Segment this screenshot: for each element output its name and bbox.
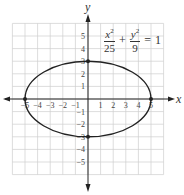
x-tick-label: −3 xyxy=(46,101,55,110)
y-tick-label: 5 xyxy=(81,32,85,41)
y-tick-label: −5 xyxy=(76,158,85,167)
x-tick-label: −4 xyxy=(33,101,42,110)
vertex-point xyxy=(149,97,153,101)
x-axis-left-arrow-icon xyxy=(3,97,10,102)
y-axis-up-arrow-icon xyxy=(86,14,91,22)
fraction-y: y2 9 xyxy=(130,28,140,54)
y-tick-label: −1 xyxy=(76,108,85,117)
x-axis-right-arrow-icon xyxy=(168,97,175,102)
equals-sign: = xyxy=(144,33,151,48)
y-tick-label: 1 xyxy=(81,82,85,91)
vertex-point xyxy=(23,97,27,101)
x-tick-label: 2 xyxy=(111,101,115,110)
x-axis-label: x xyxy=(175,92,182,106)
x-tick-label: 4 xyxy=(136,101,140,110)
equation-label: x2 25 + y2 9 = 1 xyxy=(104,28,161,54)
equation-rhs: 1 xyxy=(155,33,161,48)
x-tick-label: 3 xyxy=(124,101,128,110)
y-axis-label: y xyxy=(84,0,91,14)
x-tick-label: −2 xyxy=(59,101,68,110)
plus-sign: + xyxy=(119,33,126,48)
y-tick-label: −4 xyxy=(76,145,85,154)
y-tick-label: −2 xyxy=(76,120,85,129)
y-axis-down-arrow-icon xyxy=(86,184,91,192)
y-tick-label: 2 xyxy=(81,70,85,79)
fraction-x: x2 25 xyxy=(104,28,115,54)
vertex-point xyxy=(86,135,90,139)
vertex-point xyxy=(86,59,90,63)
x-tick-label: 1 xyxy=(99,101,103,110)
y-tick-label: 4 xyxy=(81,45,85,54)
